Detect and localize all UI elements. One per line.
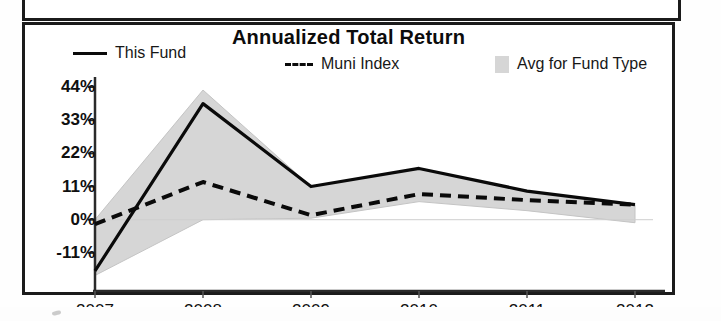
avg-fund-type-band [95, 90, 635, 275]
y-axis-tick-label: 33% [33, 110, 95, 130]
y-axis-tick-label: -11% [33, 243, 95, 263]
y-axis-tick-label: 22% [33, 143, 95, 163]
annualized-total-return-chart: Annualized Total Return This Fund Muni I… [22, 22, 675, 295]
upper-partial-box [22, 0, 681, 21]
plot-area [25, 25, 678, 298]
y-axis-tick-label: 11% [33, 177, 95, 197]
chart-canvas [25, 25, 678, 298]
y-axis-tick-label: 0% [33, 210, 95, 230]
scan-artifact [0, 307, 721, 321]
page-background: Annualized Total Return This Fund Muni I… [0, 0, 721, 321]
y-axis-tick-label: 44% [33, 77, 95, 97]
